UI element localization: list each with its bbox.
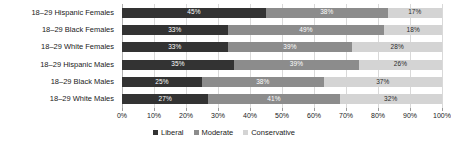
x-tick-label: 0% bbox=[117, 112, 127, 119]
bar-value-label: 26% bbox=[394, 61, 407, 68]
x-tick-label: 10% bbox=[147, 112, 161, 119]
legend-label: Liberal bbox=[161, 128, 184, 137]
x-tick-label: 40% bbox=[243, 112, 257, 119]
bar-segment-moderate: 38% bbox=[202, 77, 324, 87]
category-label: 18–29 White Males bbox=[50, 94, 114, 104]
plot-area: 45%38%17%33%49%18%33%39%28%35%39%26%25%3… bbox=[122, 4, 442, 108]
bar-segment-moderate: 39% bbox=[228, 42, 353, 52]
bar-value-label: 27% bbox=[159, 96, 172, 103]
x-tick-mark bbox=[282, 108, 283, 111]
bar-segment-liberal: 25% bbox=[122, 77, 202, 87]
bar-segment-moderate: 49% bbox=[228, 25, 385, 35]
category-label: 18–29 Hispanic Males bbox=[40, 60, 114, 70]
x-tick-label: 80% bbox=[371, 112, 385, 119]
bar-segment-moderate: 41% bbox=[208, 94, 339, 104]
bar-value-label: 37% bbox=[376, 79, 389, 86]
bar-value-label: 38% bbox=[320, 9, 333, 16]
bar-value-label: 38% bbox=[256, 79, 269, 86]
bar-value-label: 49% bbox=[299, 27, 312, 34]
bar-segment-conservative: 17% bbox=[388, 8, 442, 18]
legend: LiberalModerateConservative bbox=[0, 128, 448, 137]
bar-value-label: 33% bbox=[168, 27, 181, 34]
legend-label: Moderate bbox=[202, 128, 234, 137]
category-label: 18–29 Black Females bbox=[42, 25, 114, 35]
x-tick-label: 50% bbox=[275, 112, 289, 119]
legend-item-conservative[interactable]: Conservative bbox=[243, 128, 295, 137]
bar-value-label: 33% bbox=[168, 44, 181, 51]
x-tick-label: 90% bbox=[403, 112, 417, 119]
bar-value-label: 41% bbox=[267, 96, 280, 103]
bar-segment-liberal: 27% bbox=[122, 94, 208, 104]
bar-segment-liberal: 45% bbox=[122, 8, 266, 18]
bar-segment-liberal: 33% bbox=[122, 42, 228, 52]
category-axis: 18–29 Hispanic Females18–29 Black Female… bbox=[0, 4, 118, 108]
x-tick-label: 60% bbox=[307, 112, 321, 119]
legend-label: Conservative bbox=[251, 128, 295, 137]
bar-value-label: 17% bbox=[408, 9, 421, 16]
bar-value-label: 39% bbox=[290, 61, 303, 68]
x-tick-mark bbox=[442, 108, 443, 111]
x-tick-mark bbox=[410, 108, 411, 111]
bar-segment-conservative: 28% bbox=[352, 42, 442, 52]
x-tick-mark bbox=[154, 108, 155, 111]
x-tick-mark bbox=[378, 108, 379, 111]
bar-row: 45%38%17% bbox=[122, 8, 442, 18]
x-tick-mark bbox=[186, 108, 187, 111]
bar-segment-conservative: 32% bbox=[340, 94, 442, 104]
bar-value-label: 35% bbox=[171, 61, 184, 68]
legend-swatch-icon bbox=[153, 130, 158, 135]
bar-segment-liberal: 33% bbox=[122, 25, 228, 35]
bar-segment-moderate: 39% bbox=[234, 60, 359, 70]
gridline-100pct bbox=[442, 4, 443, 108]
x-tick-mark bbox=[122, 108, 123, 111]
bar-segment-liberal: 35% bbox=[122, 60, 234, 70]
bar-value-label: 32% bbox=[384, 96, 397, 103]
bar-row: 35%39%26% bbox=[122, 60, 442, 70]
bar-rows: 45%38%17%33%49%18%33%39%28%35%39%26%25%3… bbox=[122, 4, 442, 108]
bar-value-label: 18% bbox=[407, 27, 420, 34]
bar-row: 27%41%32% bbox=[122, 94, 442, 104]
x-tick-mark bbox=[218, 108, 219, 111]
bar-row: 33%39%28% bbox=[122, 42, 442, 52]
x-tick-mark bbox=[314, 108, 315, 111]
category-label: 18–29 White Females bbox=[41, 42, 114, 52]
x-tick-label: 20% bbox=[179, 112, 193, 119]
x-tick-mark bbox=[250, 108, 251, 111]
bar-value-label: 45% bbox=[187, 9, 200, 16]
bar-value-label: 28% bbox=[391, 44, 404, 51]
bar-segment-conservative: 18% bbox=[384, 25, 442, 35]
bar-segment-conservative: 37% bbox=[324, 77, 442, 87]
x-tick-label: 30% bbox=[211, 112, 225, 119]
x-tick-mark bbox=[346, 108, 347, 111]
category-label: 18–29 Hispanic Females bbox=[31, 8, 114, 18]
legend-item-liberal[interactable]: Liberal bbox=[153, 128, 184, 137]
x-tick-label: 70% bbox=[339, 112, 353, 119]
bar-row: 33%49%18% bbox=[122, 25, 442, 35]
bar-row: 25%38%37% bbox=[122, 77, 442, 87]
legend-item-moderate[interactable]: Moderate bbox=[194, 128, 234, 137]
category-label: 18–29 Black Males bbox=[51, 77, 114, 87]
bar-value-label: 39% bbox=[283, 44, 296, 51]
bar-segment-moderate: 38% bbox=[266, 8, 388, 18]
x-tick-label: 100% bbox=[433, 112, 451, 119]
x-axis: 0%10%20%30%40%50%60%70%80%90%100% bbox=[122, 108, 442, 124]
legend-swatch-icon bbox=[194, 130, 199, 135]
legend-swatch-icon bbox=[243, 130, 248, 135]
bar-value-label: 25% bbox=[155, 79, 168, 86]
bar-segment-conservative: 26% bbox=[359, 60, 442, 70]
